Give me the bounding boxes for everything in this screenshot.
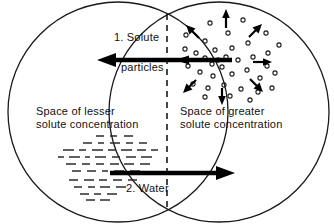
osmosis-diagram: 1. Solute particles Space of lesser solu… (0, 0, 334, 224)
left-compartment-label: Space of lesser solute concentration (36, 105, 138, 131)
arrow-down-left-icon (183, 80, 196, 93)
arrow-up-right-icon (249, 24, 262, 37)
arrow-down-icon (218, 88, 226, 105)
right-compartment-label: Space of greater solute concentration (180, 105, 282, 131)
right-compartment-label-line2: solute concentration (180, 118, 282, 131)
left-compartment-label-line1: Space of lesser (36, 105, 138, 118)
arrow-up-icon (222, 9, 230, 28)
right-compartment-label-line1: Space of greater (180, 105, 282, 118)
radiating-arrows-icon (183, 9, 272, 105)
right-arrow-icon (110, 166, 235, 180)
water-flow-label: 2. Water (126, 182, 169, 195)
solute-flow-label: 1. Solute (114, 31, 159, 44)
left-compartment-label-line2: solute concentration (36, 118, 138, 131)
solute-flow-label-second-line: particles (121, 61, 164, 74)
